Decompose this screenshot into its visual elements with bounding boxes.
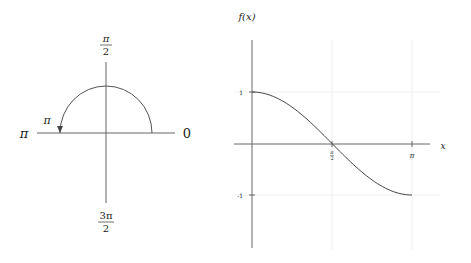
y-tick-label-neg1: -1 (237, 192, 243, 199)
unit-circle-diagram: π 2 π 0 π 3π 2 (19, 33, 191, 234)
figure-canvas: π 2 π 0 π 3π 2 1 -1 π 2 π (0, 0, 471, 263)
x-axis-label: x (440, 141, 445, 151)
label-arc: π (42, 114, 51, 127)
label-bottom-den: 2 (103, 223, 109, 234)
cosine-chart: 1 -1 π 2 π x f(x) (234, 11, 446, 250)
label-right: 0 (183, 126, 191, 141)
arrowhead-icon (57, 126, 63, 133)
grid (234, 40, 440, 250)
label-top-den: 2 (103, 46, 109, 57)
y-tick-label-1: 1 (239, 89, 243, 96)
label-bottom-num: 3π (100, 210, 113, 221)
x-tick-label-half-pi-den: 2 (330, 155, 333, 161)
y-axis-label: f(x) (237, 11, 255, 22)
label-left: π (19, 126, 29, 141)
label-top-num: π (102, 33, 110, 44)
x-tick-label-pi: π (409, 152, 415, 160)
